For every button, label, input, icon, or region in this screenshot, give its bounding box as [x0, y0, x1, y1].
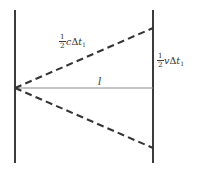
length-label: l: [98, 76, 101, 87]
displacement-label: 1 2 vΔt1: [157, 51, 184, 69]
fraction-denominator: 2: [157, 61, 164, 69]
light-path-label: 1 2 cΔt1: [59, 32, 86, 50]
time-subscript-v: 1: [180, 60, 184, 67]
lower-light-ray-dashed: [15, 88, 153, 148]
fraction-denominator: 2: [59, 42, 66, 50]
time-subscript-c: 1: [82, 41, 86, 48]
one-half-fraction-c: 1 2: [59, 33, 66, 50]
physics-diagram-figure: 1 2 cΔt1 1 2 vΔt1 l: [0, 0, 198, 171]
one-half-fraction-v: 1 2: [157, 52, 164, 69]
